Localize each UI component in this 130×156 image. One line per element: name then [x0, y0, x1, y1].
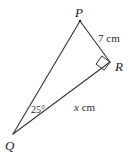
side-length-unit-cm: cm: [79, 101, 95, 113]
geometry-figure: P R Q 7 cm x cm 25°: [0, 0, 130, 156]
side-length-label-PR: 7 cm: [98, 33, 120, 44]
triangle-diagram-svg: [0, 0, 130, 156]
side-QR-line: [13, 62, 110, 134]
angle-label-Q: 25°: [31, 105, 45, 115]
vertex-dot-P: [79, 20, 82, 23]
vertex-label-R: R: [115, 60, 123, 73]
side-length-label-QR: x cm: [74, 102, 95, 113]
vertex-label-Q: Q: [5, 139, 14, 152]
side-PQ-line: [13, 21, 80, 134]
vertex-label-P: P: [75, 6, 83, 19]
